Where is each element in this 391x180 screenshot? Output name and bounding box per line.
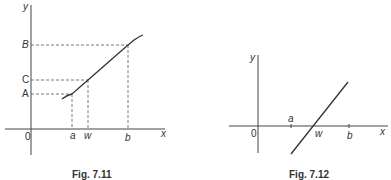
fig-7-11: y B C A 0 a w b x Fig. 7.11 [5,1,167,180]
y-axis-label: y [249,52,256,63]
tick-w-label: w [315,128,323,139]
x-axis-label: x [379,126,386,137]
tick-b-label: b [125,132,131,143]
figure-canvas: y B C A 0 a w b x Fig. 7.11 y 0 a w b x … [0,0,391,180]
level-A-label: A [22,88,29,99]
origin-label: 0 [25,131,31,142]
x-axis-label: x [160,128,167,139]
tick-w-label: w [84,130,92,141]
caption-fig-7-12: Fig. 7.12 [289,169,329,180]
level-C-label: C [22,74,29,85]
caption-fig-7-11: Fig. 7.11 [72,169,112,180]
tick-a-label: a [70,130,76,141]
tick-b-label: b [347,130,353,141]
origin-label: 0 [251,128,257,139]
function-line [291,82,348,154]
y-axis-label: y [22,1,29,12]
level-B-label: B [22,39,29,50]
fig-7-12: y 0 a w b x Fig. 7.12 [229,52,388,180]
tick-a-label: a [288,113,294,124]
